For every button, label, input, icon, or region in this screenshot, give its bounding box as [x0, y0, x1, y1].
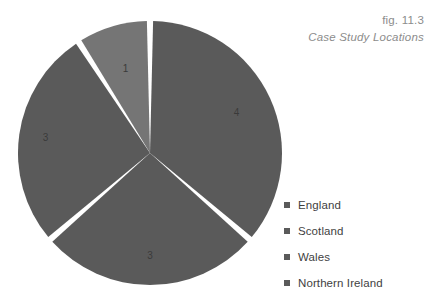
pie-slice-label: 3: [147, 250, 153, 261]
legend-item[interactable]: Wales: [284, 244, 434, 270]
figure-title: Case Study Locations: [308, 29, 424, 46]
legend-item[interactable]: Northern Ireland: [284, 270, 434, 296]
legend-item[interactable]: Scotland: [284, 218, 434, 244]
legend-swatch-icon: [284, 280, 290, 286]
figure-number: fig. 11.3: [308, 12, 424, 29]
pie-chart: 4331: [0, 0, 300, 302]
figure-caption: fig. 11.3 Case Study Locations: [308, 12, 424, 45]
legend-item[interactable]: England: [284, 192, 434, 218]
pie-slice-label: 4: [234, 107, 240, 118]
legend-swatch-icon: [284, 228, 290, 234]
legend-swatch-icon: [284, 254, 290, 260]
legend-item-label: England: [298, 199, 341, 211]
pie-slice-label: 1: [123, 63, 129, 74]
legend-item-label: Wales: [298, 251, 330, 263]
chart-legend: EnglandScotlandWalesNorthern Ireland: [284, 192, 434, 296]
legend-swatch-icon: [284, 202, 290, 208]
legend-item-label: Northern Ireland: [298, 277, 383, 289]
pie-slice-label: 3: [43, 132, 49, 143]
pie-chart-svg: 4331: [0, 0, 300, 302]
legend-item-label: Scotland: [298, 225, 344, 237]
pie-slice-group: [18, 21, 282, 285]
figure-root: fig. 11.3 Case Study Locations 4331 Engl…: [0, 0, 434, 302]
